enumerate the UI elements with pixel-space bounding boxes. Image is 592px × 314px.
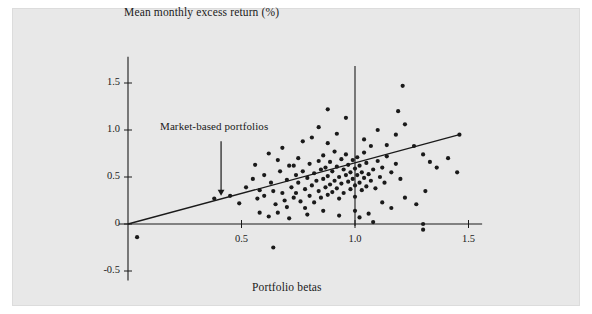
data-point xyxy=(317,125,321,129)
data-point xyxy=(376,159,380,163)
data-point xyxy=(276,211,280,215)
data-point xyxy=(369,179,373,183)
data-point xyxy=(323,185,327,189)
data-point xyxy=(323,166,327,170)
data-point xyxy=(308,162,312,166)
y-tick-label-0.5: 0.5 xyxy=(80,170,120,181)
data-point xyxy=(321,209,325,213)
data-point xyxy=(258,188,262,192)
data-point xyxy=(253,163,257,167)
data-point xyxy=(303,187,307,191)
data-point xyxy=(353,166,357,170)
axes-group xyxy=(119,57,482,281)
data-point xyxy=(321,177,325,181)
data-point xyxy=(357,164,361,168)
data-point xyxy=(310,135,314,139)
data-point xyxy=(385,143,389,147)
data-point xyxy=(312,200,316,204)
data-point xyxy=(267,151,271,155)
data-point xyxy=(351,177,355,181)
data-point xyxy=(317,159,321,163)
data-point xyxy=(228,194,232,198)
data-point xyxy=(421,222,425,226)
data-point xyxy=(337,175,341,179)
data-point xyxy=(285,178,289,182)
data-point xyxy=(296,181,300,185)
data-point xyxy=(428,160,432,164)
data-point xyxy=(251,177,255,181)
figure-container: Mean monthly excess return (%) Portfolio… xyxy=(0,0,592,314)
data-point xyxy=(276,158,280,162)
y-tick-label--0.5: -0.5 xyxy=(80,264,120,275)
data-point xyxy=(351,158,355,162)
data-point xyxy=(380,200,384,204)
data-point xyxy=(369,144,373,148)
data-point xyxy=(423,189,427,193)
data-point xyxy=(348,187,352,191)
data-point xyxy=(348,170,352,174)
data-point xyxy=(403,196,407,200)
data-point xyxy=(303,206,307,210)
data-point xyxy=(394,162,398,166)
data-point xyxy=(373,186,377,190)
data-point xyxy=(319,167,323,171)
data-point xyxy=(360,170,364,174)
data-point xyxy=(421,228,425,232)
x-tick-label-1.0: 1.0 xyxy=(335,233,375,244)
data-point xyxy=(278,169,282,173)
data-point xyxy=(292,196,296,200)
regression-line-group xyxy=(128,135,459,224)
data-point xyxy=(326,193,330,197)
data-point xyxy=(357,181,361,185)
data-point xyxy=(317,189,321,193)
data-point xyxy=(346,163,350,167)
data-point xyxy=(283,198,287,202)
data-point xyxy=(212,197,216,201)
data-point xyxy=(378,175,382,179)
data-point xyxy=(435,166,439,170)
data-point xyxy=(382,181,386,185)
data-point xyxy=(371,167,375,171)
data-point xyxy=(326,141,330,145)
data-point xyxy=(271,189,275,193)
annotation-arrow-group xyxy=(218,141,225,196)
data-point xyxy=(332,150,336,154)
data-point xyxy=(267,214,271,218)
data-point xyxy=(308,194,312,198)
data-point xyxy=(237,201,241,205)
data-point xyxy=(280,146,284,150)
data-point xyxy=(280,191,284,195)
data-point xyxy=(355,155,359,159)
data-point xyxy=(258,211,262,215)
data-point xyxy=(457,133,461,137)
data-point xyxy=(294,191,298,195)
data-point xyxy=(262,173,266,177)
y-axis-label: Mean monthly excess return (%) xyxy=(124,6,279,18)
data-point xyxy=(285,205,289,209)
data-point xyxy=(344,152,348,156)
data-point xyxy=(271,245,275,249)
data-point xyxy=(376,128,380,132)
y-tick-label-1.5: 1.5 xyxy=(80,76,120,87)
data-point xyxy=(287,164,291,168)
data-point xyxy=(330,190,334,194)
data-point xyxy=(337,197,341,201)
data-point xyxy=(362,137,366,141)
data-point xyxy=(367,212,371,216)
data-point xyxy=(289,185,293,189)
data-point xyxy=(421,152,425,156)
data-point xyxy=(305,176,309,180)
data-point xyxy=(321,153,325,157)
data-point xyxy=(353,195,357,199)
data-point xyxy=(296,156,300,160)
data-point xyxy=(353,183,357,187)
data-point xyxy=(287,216,291,220)
x-axis-label: Portfolio betas xyxy=(252,281,322,293)
data-point xyxy=(401,84,405,88)
data-point xyxy=(414,202,418,206)
data-point xyxy=(328,182,332,186)
data-point xyxy=(314,179,318,183)
data-point xyxy=(357,215,361,219)
data-point xyxy=(389,170,393,174)
data-point xyxy=(394,133,398,137)
